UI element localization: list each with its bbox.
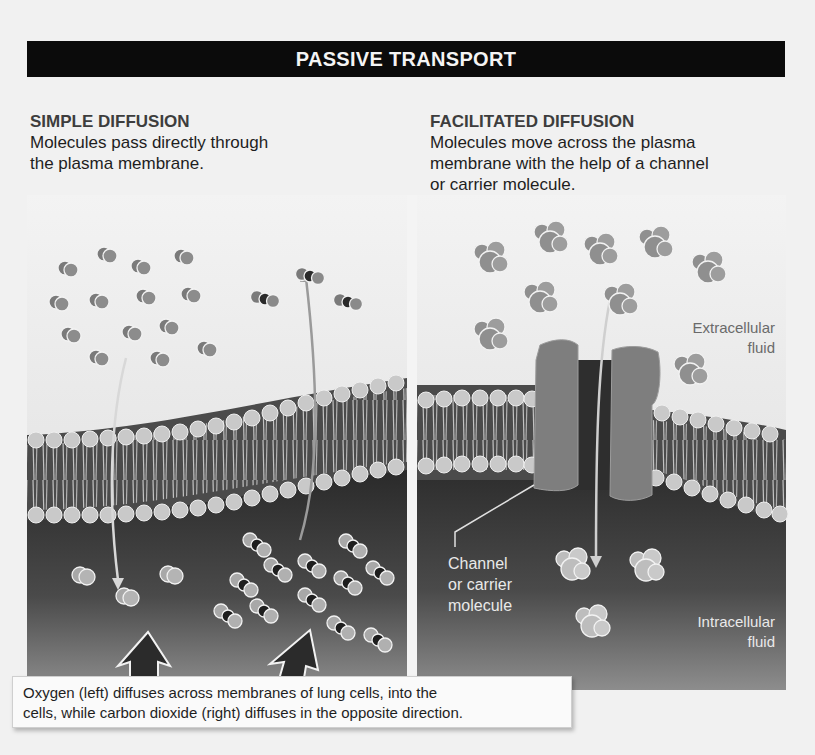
intracellular-label-line-2: fluid <box>697 632 775 652</box>
caption-line-2: cells, while carbon dioxide (right) diff… <box>23 703 561 723</box>
simple-diffusion-heading: SIMPLE DIFFUSION <box>30 112 190 132</box>
simple-desc-line-1: Molecules pass directly through <box>30 132 268 153</box>
extracellular-fluid-label: Extracellular fluid <box>692 318 775 358</box>
facilitated-desc-line-1: Molecules move across the plasma <box>430 132 709 153</box>
extracellular-label-line-1: Extracellular <box>692 318 775 338</box>
simple-desc-line-2: the plasma membrane. <box>30 153 268 174</box>
oxygen-molecule <box>116 588 139 606</box>
oxygen-molecule <box>72 567 95 585</box>
caption-line-1: Oxygen (left) diffuses across membranes … <box>23 683 561 703</box>
facilitated-diffusion-description: Molecules move across the plasma membran… <box>430 132 709 195</box>
intracellular-fluid-label: Intracellular fluid <box>697 612 775 652</box>
figure-caption: Oxygen (left) diffuses across membranes … <box>12 676 572 728</box>
intracellular-label-line-1: Intracellular <box>697 612 775 632</box>
facilitated-desc-line-3: or carrier molecule. <box>430 174 709 195</box>
facilitated-diffusion-heading: FACILITATED DIFFUSION <box>430 112 634 132</box>
oxygen-molecule <box>160 566 183 584</box>
simple-diffusion-description: Molecules pass directly through the plas… <box>30 132 268 174</box>
channel-carrier-label: Channel or carrier molecule <box>448 553 512 616</box>
channel-label-line-2: or carrier <box>448 574 512 595</box>
facilitated-desc-line-2: membrane with the help of a channel <box>430 153 709 174</box>
extracellular-label-line-2: fluid <box>692 338 775 358</box>
channel-label-line-3: molecule <box>448 595 512 616</box>
channel-label-line-1: Channel <box>448 553 512 574</box>
